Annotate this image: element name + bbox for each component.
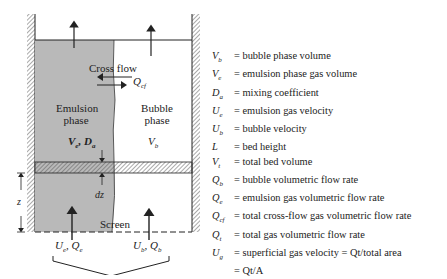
legend-symbol: Vt <box>212 155 234 173</box>
legend-symbol: Vb <box>212 49 234 67</box>
legend-text: = total gas volumetric flow rate <box>234 228 365 246</box>
legend-symbol: Qt <box>212 228 234 246</box>
emulsion-word: Emulsion <box>56 102 98 114</box>
de-symbol: , D <box>78 135 91 147</box>
legend-symbol: L <box>212 140 234 154</box>
ub-qb-label: Ub, Qb <box>133 239 161 254</box>
legend-row: Qt= total gas volumetric flow rate <box>212 228 411 246</box>
legend-row: Vb= bubble phase volume <box>212 49 411 67</box>
legend-row: Ug= superficial gas velocity = Qt/total … <box>212 246 411 264</box>
legend-row: Ve= emulsion phase gas volume <box>212 67 411 85</box>
screen-label: Screen <box>100 218 130 230</box>
cross-flow-label: Cross flow <box>89 62 137 74</box>
legend-text: = total bed volume <box>234 155 312 173</box>
ue-qe-label: Ue, Qe <box>55 239 83 254</box>
legend-text: = bubble velocity <box>234 122 307 140</box>
legend-row: Qe= emulsion gas volumetric flow rate <box>212 191 411 209</box>
legend-text: = emulsion gas volumetric flow rate <box>234 191 384 209</box>
legend-text: = total cross-flow gas volumetric flow r… <box>234 209 411 227</box>
qcf-label: Qcf <box>133 75 146 90</box>
bubble-phase-word: phase <box>144 114 169 126</box>
feed-split-lines <box>53 256 169 275</box>
legend-text: = bubble volumetric flow rate <box>234 173 358 191</box>
differential-slab <box>35 162 192 173</box>
bubble-phase-label: Bubblephase <box>137 102 177 126</box>
legend-row: Ub= bubble velocity <box>212 122 411 140</box>
qe-symbol: , Q <box>66 239 79 251</box>
legend-text: = bubble phase volume <box>234 49 331 67</box>
de-sub: a <box>92 142 96 150</box>
legend-symbol: Da <box>212 86 234 104</box>
legend-text: = Qt/A <box>234 264 263 278</box>
ve-de-label: Ve, Da <box>68 135 95 150</box>
legend-row: Vt= total bed volume <box>212 155 411 173</box>
qe-sub: e <box>80 246 83 254</box>
legend-text: = emulsion gas velocity <box>234 104 333 122</box>
legend-symbol: Ub <box>212 122 234 140</box>
bubble-word: Bubble <box>141 102 173 114</box>
right-wall <box>192 14 200 232</box>
legend-row: Da= mixing coefficient <box>212 86 411 104</box>
legend-row: Ue= emulsion gas velocity <box>212 104 411 122</box>
legend-text: = mixing coefficient <box>234 86 319 104</box>
qb-symbol: , Q <box>144 239 157 251</box>
vb-label: Vb <box>148 135 158 150</box>
legend-symbol: Ve <box>212 67 234 85</box>
symbol-legend: Vb= bubble phase volumeVe= emulsion phas… <box>212 49 411 279</box>
legend-symbol: Qcf <box>212 209 234 227</box>
legend-symbol: Qb <box>212 173 234 191</box>
dz-label: dz <box>95 189 104 200</box>
legend-text: = emulsion phase gas volume <box>234 67 357 85</box>
emulsion-phase-label: Emulsionphase <box>56 102 96 126</box>
ub-symbol: U <box>133 239 141 251</box>
emulsion-phase-word: phase <box>63 114 88 126</box>
legend-row: L= bed height <box>212 140 411 154</box>
legend-text: = superficial gas velocity = Qt/total ar… <box>234 246 402 264</box>
qcf-sub: cf <box>141 82 146 90</box>
legend-symbol <box>212 264 234 278</box>
legend-text: = bed height <box>234 140 286 154</box>
legend-row: = Qt/A <box>212 264 411 278</box>
legend-row: Qcf= total cross-flow gas volumetric flo… <box>212 209 411 227</box>
left-wall <box>27 14 35 232</box>
qcf-symbol: Q <box>133 75 141 87</box>
legend-symbol: Ug <box>212 246 234 264</box>
legend-symbol: Qe <box>212 191 234 209</box>
z-label: z <box>17 196 21 207</box>
vb-symbol: V <box>148 135 155 147</box>
legend-row: Qb= bubble volumetric flow rate <box>212 173 411 191</box>
legend-symbol: Ue <box>212 104 234 122</box>
ue-symbol: U <box>55 239 63 251</box>
qb-sub: b <box>158 246 162 254</box>
vb-sub: b <box>155 142 159 150</box>
